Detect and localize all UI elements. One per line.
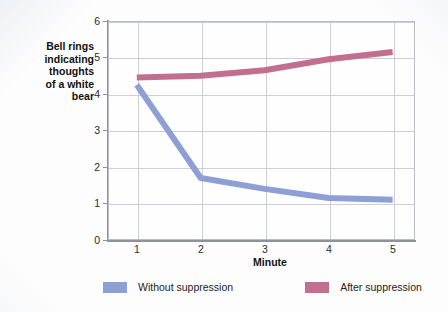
x-tick-label-1: 1: [125, 243, 149, 255]
line-after-suppression: [137, 52, 393, 78]
y-tick-mark: [103, 240, 107, 241]
legend-label: After suppression: [340, 281, 422, 293]
series-lines: [108, 21, 415, 240]
line-without-suppression: [137, 85, 393, 200]
legend-swatch-icon: [305, 282, 329, 293]
legend-item-without-suppression[interactable]: Without suppression: [103, 281, 233, 293]
legend-swatch-icon: [103, 282, 127, 293]
x-axis-spine: [107, 240, 416, 242]
legend-item-after-suppression[interactable]: After suppression: [305, 281, 422, 293]
x-tick-label-5: 5: [381, 243, 405, 255]
y-tick-label-5: 5: [78, 51, 100, 63]
y-tick-label-2: 2: [78, 161, 100, 173]
x-tick-label-2: 2: [189, 243, 213, 255]
chart-figure: Bell rings indicating thoughts of a whit…: [0, 0, 448, 312]
y-tick-label-4: 4: [78, 88, 100, 100]
y-tick-mark: [103, 94, 107, 95]
y-tick-mark: [103, 203, 107, 204]
y-tick-mark: [103, 57, 107, 58]
y-tick-label-0: 0: [78, 234, 100, 246]
legend-label: Without suppression: [138, 281, 233, 293]
y-tick-label-3: 3: [78, 124, 100, 136]
y-tick-mark: [103, 21, 107, 22]
x-tick-label-3: 3: [253, 243, 277, 255]
y-tick-label-6: 6: [78, 15, 100, 27]
y-tick-label-1: 1: [78, 197, 100, 209]
y-tick-mark: [103, 167, 107, 168]
x-tick-label-4: 4: [317, 243, 341, 255]
x-axis-title: Minute: [137, 256, 403, 268]
y-tick-mark: [103, 130, 107, 131]
chart-legend: Without suppression After suppression: [103, 281, 422, 293]
